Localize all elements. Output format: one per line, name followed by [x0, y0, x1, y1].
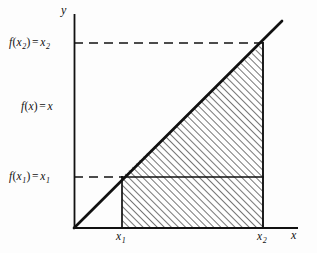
- x-axis-label: x: [291, 229, 297, 241]
- label-f-x: f(x)=x: [21, 101, 53, 113]
- x-tick-x1-sub: 1: [121, 236, 126, 245]
- label-f-x1: f(x1)=x1: [9, 171, 50, 183]
- label-f-x-value: x: [47, 100, 52, 112]
- x-tick-label-x1: x1: [116, 231, 126, 243]
- hatched-region: [122, 43, 263, 228]
- label-f-x1-value-sub: 1: [45, 176, 50, 185]
- y-axis-label: y: [61, 4, 67, 16]
- label-f-x2-value-sub: 2: [45, 42, 50, 51]
- label-f-x2: f(x2)=x2: [9, 37, 50, 49]
- x-tick-label-x2: x2: [257, 231, 267, 243]
- figure-root: y x f(x2)=x2 f(x)=x f(x1)=x1 x1 x2: [0, 0, 317, 253]
- label-f-x2-arg: x: [16, 36, 21, 48]
- label-f-x1-arg: x: [16, 170, 21, 182]
- label-f-x2-equals: =: [30, 36, 40, 48]
- label-f-x1-equals: =: [30, 170, 40, 182]
- label-f-x2-arg-sub: 2: [22, 42, 27, 51]
- label-f-x1-arg-sub: 1: [22, 176, 27, 185]
- x-tick-x2-sub: 2: [262, 236, 267, 245]
